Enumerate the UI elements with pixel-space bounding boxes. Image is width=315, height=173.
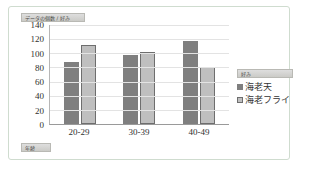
- gridline: [50, 110, 229, 111]
- pivot-axis-field-button[interactable]: 年齢: [21, 143, 51, 152]
- legend-item-label: 海老フライ: [245, 95, 290, 105]
- legend-swatch-icon: [237, 97, 243, 103]
- legend-items: 海老天海老フライ: [237, 82, 293, 105]
- gridline: [50, 25, 229, 26]
- legend-item-label: 海老天: [245, 82, 272, 92]
- gridline: [50, 39, 229, 40]
- chart-frame: データの個数 / 好み 年齢 140120100806040200 20-293…: [8, 6, 290, 160]
- legend-swatch-icon: [237, 84, 243, 90]
- y-axis-tick-label: 100: [31, 49, 45, 59]
- bar[interactable]: [123, 55, 138, 124]
- legend-item[interactable]: 海老天: [237, 82, 293, 92]
- y-axis-tick-label: 20: [35, 106, 44, 116]
- x-axis-tick-label: 40-49: [189, 127, 210, 137]
- bar[interactable]: [81, 45, 96, 124]
- gridline: [50, 82, 229, 83]
- y-axis-tick-label: 0: [40, 120, 45, 130]
- gridline: [50, 53, 229, 54]
- x-axis-tick-label: 20-29: [69, 127, 90, 137]
- x-axis-labels: 20-2930-3940-49: [49, 127, 229, 137]
- legend: 好み 海老天海老フライ: [237, 69, 293, 105]
- plot-wrapper: 140120100806040200 20-2930-3940-49: [21, 25, 229, 137]
- y-axis-tick-label: 120: [31, 34, 45, 44]
- bar[interactable]: [140, 52, 155, 124]
- x-axis-tick-label: 30-39: [129, 127, 150, 137]
- y-axis-tick-label: 60: [35, 77, 44, 87]
- pivot-legend-field-button[interactable]: 好み: [237, 69, 293, 78]
- gridline: [50, 96, 229, 97]
- y-axis-tick-label: 140: [31, 20, 45, 30]
- y-axis: 140120100806040200: [21, 25, 47, 125]
- gridline: [50, 67, 229, 68]
- pivot-chart-screenshot: データの個数 / 好み 年齢 140120100806040200 20-293…: [0, 0, 315, 173]
- plot-area: [49, 25, 229, 125]
- y-axis-tick-label: 40: [35, 91, 44, 101]
- y-axis-tick-label: 80: [35, 63, 44, 73]
- bar[interactable]: [64, 62, 79, 124]
- legend-item[interactable]: 海老フライ: [237, 95, 293, 105]
